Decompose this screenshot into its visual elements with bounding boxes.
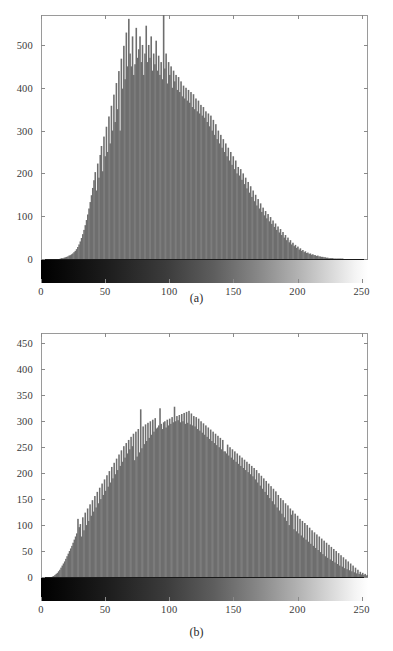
histogram-plot-b xyxy=(41,333,368,601)
histogram-svg xyxy=(41,333,368,577)
x-tick-mark-bottom xyxy=(169,597,170,601)
y-tick-label: 450 xyxy=(0,338,33,349)
x-tick-mark-top xyxy=(41,333,42,337)
y-tick-label: 500 xyxy=(0,40,33,51)
x-tick-mark-top xyxy=(169,15,170,19)
figure-panel-b: 050100150200250300350400450 050100150200… xyxy=(0,320,393,651)
y-tick-label: 100 xyxy=(0,520,33,531)
y-tick-label: 250 xyxy=(0,442,33,453)
x-tick-mark-bottom xyxy=(298,279,299,283)
y-tick-label: 400 xyxy=(0,364,33,375)
y-tick-mark xyxy=(41,447,45,448)
y-tick-mark xyxy=(41,173,45,174)
panel-caption-a: (a) xyxy=(0,291,393,306)
y-tick-mark-right xyxy=(364,173,368,174)
x-tick-mark-top xyxy=(362,15,363,19)
y-tick-label: 300 xyxy=(0,125,33,136)
x-tick-mark-top xyxy=(298,333,299,337)
y-tick-mark-right xyxy=(364,131,368,132)
x-tick-mark-bottom xyxy=(169,279,170,283)
x-tick-mark-bottom xyxy=(41,279,42,283)
x-tick-mark-top xyxy=(298,15,299,19)
histogram-plot-a xyxy=(41,15,368,283)
x-tick-mark-top xyxy=(233,15,234,19)
y-tick-mark xyxy=(41,395,45,396)
y-tick-label: 200 xyxy=(0,168,33,179)
y-tick-mark-right xyxy=(364,343,368,344)
y-tick-mark xyxy=(41,45,45,46)
y-tick-mark xyxy=(41,131,45,132)
y-tick-mark-right xyxy=(364,447,368,448)
y-tick-mark xyxy=(41,551,45,552)
y-tick-mark-right xyxy=(364,473,368,474)
x-tick-mark-top xyxy=(105,15,106,19)
y-tick-mark-right xyxy=(364,259,368,260)
y-tick-mark-right xyxy=(364,577,368,578)
y-tick-mark-right xyxy=(364,369,368,370)
y-tick-label: 100 xyxy=(0,211,33,222)
x-tick-mark-top xyxy=(362,333,363,337)
y-tick-mark-right xyxy=(364,395,368,396)
histogram-bars-a xyxy=(41,15,368,259)
x-tick-mark-top xyxy=(105,333,106,337)
figure-panel-a: 0100200300400500 050100150200250 (a) xyxy=(0,0,393,320)
y-tick-label: 50 xyxy=(0,546,33,557)
y-tick-mark xyxy=(41,577,45,578)
y-tick-mark xyxy=(41,343,45,344)
y-tick-mark xyxy=(41,216,45,217)
y-tick-label: 300 xyxy=(0,416,33,427)
x-tick-label: 150 xyxy=(225,604,241,615)
y-tick-mark-right xyxy=(364,499,368,500)
x-tick-mark-bottom xyxy=(105,597,106,601)
y-tick-mark xyxy=(41,473,45,474)
y-tick-mark xyxy=(41,525,45,526)
y-tick-label: 200 xyxy=(0,468,33,479)
x-tick-mark-bottom xyxy=(41,597,42,601)
x-tick-label: 200 xyxy=(289,604,305,615)
grayscale-colorbar-b xyxy=(41,577,368,601)
x-tick-mark-bottom xyxy=(233,279,234,283)
y-tick-mark-right xyxy=(364,525,368,526)
histogram-svg xyxy=(41,15,368,259)
x-tick-mark-bottom xyxy=(298,597,299,601)
histogram-bars-b xyxy=(41,333,368,577)
y-tick-mark-right xyxy=(364,45,368,46)
x-tick-mark-top xyxy=(233,333,234,337)
x-tick-label: 100 xyxy=(161,604,177,615)
y-tick-mark xyxy=(41,88,45,89)
x-tick-mark-bottom xyxy=(362,597,363,601)
x-tick-label: 0 xyxy=(38,604,43,615)
y-tick-label: 150 xyxy=(0,494,33,505)
y-tick-label: 350 xyxy=(0,390,33,401)
y-tick-mark-right xyxy=(364,216,368,217)
y-tick-label: 0 xyxy=(0,254,33,265)
y-tick-mark xyxy=(41,499,45,500)
x-tick-mark-top xyxy=(169,333,170,337)
y-tick-label: 400 xyxy=(0,82,33,93)
grayscale-colorbar-a xyxy=(41,259,368,283)
x-tick-label: 50 xyxy=(100,604,111,615)
panel-caption-b: (b) xyxy=(0,625,393,640)
x-tick-mark-top xyxy=(41,15,42,19)
y-tick-label: 0 xyxy=(0,572,33,583)
y-tick-mark-right xyxy=(364,421,368,422)
x-tick-mark-bottom xyxy=(362,279,363,283)
y-tick-mark xyxy=(41,369,45,370)
y-tick-mark-right xyxy=(364,88,368,89)
x-tick-label: 250 xyxy=(353,604,369,615)
y-tick-mark-right xyxy=(364,551,368,552)
y-tick-mark xyxy=(41,421,45,422)
x-tick-mark-bottom xyxy=(233,597,234,601)
y-tick-mark xyxy=(41,259,45,260)
x-tick-mark-bottom xyxy=(105,279,106,283)
